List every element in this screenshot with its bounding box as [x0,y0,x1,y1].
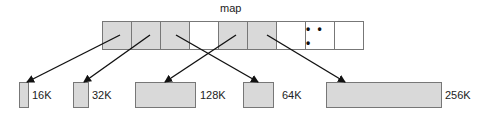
arrow-cell5-to-128k [165,35,236,82]
arrow-cell6-to-256k [267,35,345,82]
arrow-cell1-to-16k [27,35,120,82]
arrow-cell2-to-32k [84,35,150,82]
arrows-layer [0,0,488,116]
arrow-cell3-to-64k [176,35,258,82]
